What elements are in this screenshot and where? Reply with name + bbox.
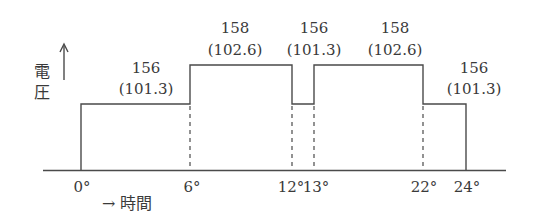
svg-text:158: 158 <box>221 19 250 37</box>
tick-24: 24° <box>454 178 481 196</box>
segment-label-6-12: 158 (102.6) <box>208 19 263 59</box>
svg-text:156: 156 <box>300 19 329 37</box>
segment-label-0-6: 156 (101.3) <box>119 59 174 98</box>
svg-text:(102.6): (102.6) <box>208 41 263 59</box>
segment-label-13-22: 158 (102.6) <box>368 19 423 59</box>
x-axis-label: → 時間 <box>102 194 153 213</box>
svg-text:158: 158 <box>381 19 410 37</box>
tick-6: 6° <box>183 178 200 196</box>
segment-label-12-13: 156 (101.3) <box>287 19 342 59</box>
svg-text:156: 156 <box>460 59 489 77</box>
tick-0: 0° <box>73 178 90 196</box>
voltage-time-diagram: 電 圧 156 (101.3) 158 (102.6) 156 (101.3) … <box>0 0 533 215</box>
voltage-arrow-icon <box>60 44 68 80</box>
y-axis-label-char-2: 圧 <box>34 83 50 102</box>
tick-22: 22° <box>411 178 438 196</box>
svg-text:(101.3): (101.3) <box>447 80 502 98</box>
svg-text:(101.3): (101.3) <box>119 80 174 98</box>
svg-text:(101.3): (101.3) <box>287 41 342 59</box>
svg-text:156: 156 <box>132 59 161 77</box>
tick-13: 13° <box>303 178 330 196</box>
tick-12: 12° <box>278 178 305 196</box>
y-axis-label-char-1: 電 <box>34 62 50 81</box>
segment-label-22-24: 156 (101.3) <box>447 59 502 98</box>
svg-text:(102.6): (102.6) <box>368 41 423 59</box>
